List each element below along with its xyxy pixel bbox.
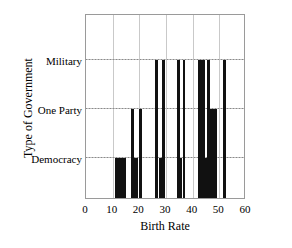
- x-axis-title: Birth Rate: [85, 219, 245, 233]
- y-tick-label: Democracy: [0, 153, 82, 165]
- chart-container: DemocracyOne PartyMilitary 0102030405060…: [0, 0, 292, 248]
- x-tick-label: 20: [125, 203, 151, 215]
- bar: [198, 60, 205, 198]
- x-tick-label: 30: [152, 203, 178, 215]
- x-gridline: [166, 15, 167, 198]
- bar: [180, 158, 182, 198]
- bar: [210, 109, 217, 198]
- y-tick-label: One Party: [0, 104, 82, 116]
- y-tick-label: Military: [0, 55, 82, 67]
- bar: [162, 60, 165, 198]
- x-gridline: [193, 15, 194, 198]
- x-gridline: [219, 15, 220, 198]
- x-tick-label: 40: [179, 203, 205, 215]
- x-tick-label: 0: [72, 203, 98, 215]
- bar: [223, 60, 226, 198]
- y-axis-title: Type of Government: [21, 33, 35, 183]
- x-tick-label: 10: [99, 203, 125, 215]
- bar: [139, 109, 142, 198]
- x-tick-label: 60: [232, 203, 258, 215]
- bar: [115, 158, 126, 198]
- bar: [183, 60, 186, 198]
- x-gridline: [113, 15, 114, 198]
- plot-area: [85, 14, 245, 199]
- x-tick-label: 50: [205, 203, 231, 215]
- bar: [134, 158, 138, 198]
